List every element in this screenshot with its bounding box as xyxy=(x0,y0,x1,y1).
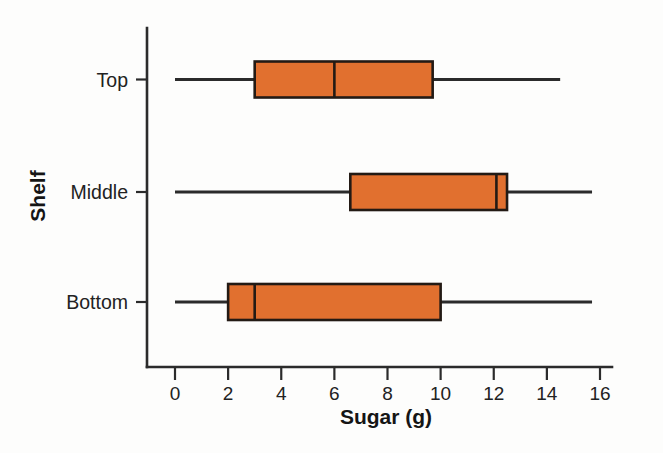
x-axis-title: Sugar (g) xyxy=(340,405,432,428)
y-axis-tick-labels: TopMiddleBottom xyxy=(66,69,128,314)
x-tick-label: 0 xyxy=(170,383,181,404)
chart-canvas: 0246810121416 TopMiddleBottom Sugar (g) … xyxy=(0,0,663,453)
y-axis-title: Shelf xyxy=(26,169,49,221)
x-tick-label: 8 xyxy=(382,383,393,404)
y-axis-ticks xyxy=(136,80,147,303)
x-tick-label: 6 xyxy=(329,383,340,404)
x-tick-label: 4 xyxy=(276,383,287,404)
x-tick-label: 16 xyxy=(589,383,610,404)
box-bottom xyxy=(175,284,592,320)
box-body-middle xyxy=(350,174,507,210)
box-middle xyxy=(175,174,592,210)
y-tick-label-bottom: Bottom xyxy=(66,291,128,313)
y-tick-label-top: Top xyxy=(97,69,129,91)
box-body-top xyxy=(255,62,433,98)
x-tick-label: 12 xyxy=(483,383,504,404)
x-tick-label: 2 xyxy=(223,383,234,404)
y-tick-label-middle: Middle xyxy=(71,181,128,203)
x-axis-ticks xyxy=(175,367,600,380)
box-plot-figure: 0246810121416 TopMiddleBottom Sugar (g) … xyxy=(0,0,663,453)
x-tick-label: 14 xyxy=(536,383,558,404)
x-tick-label: 10 xyxy=(430,383,451,404)
box-top xyxy=(175,62,560,98)
x-axis-tick-labels: 0246810121416 xyxy=(170,383,611,404)
box-body-bottom xyxy=(228,284,441,320)
box-plot-series xyxy=(175,62,592,321)
